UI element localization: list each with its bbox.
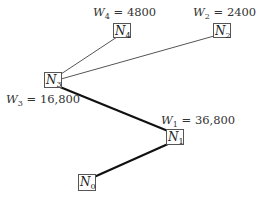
node-n3: N3: [45, 73, 62, 90]
node-n0-letter: N: [79, 175, 91, 189]
node-n1-letter: N: [167, 130, 179, 144]
node-n1: N1: [167, 130, 184, 147]
edge-n3-n4: [61, 37, 117, 74]
node-n2: N2: [214, 24, 231, 41]
weight-label-w4: W4 = 4800: [93, 5, 156, 21]
weight-label-w1: W1 = 36,800: [161, 113, 235, 129]
tree-diagram: N4 N2 N3 N1 N0 W4 = 4800 W2 = 2400 W3 = …: [0, 0, 258, 201]
edge-n1-n0: [94, 144, 168, 177]
node-n0-sub: 0: [91, 182, 96, 191]
node-n0: N0: [79, 175, 96, 192]
node-n3-letter: N: [45, 73, 57, 87]
node-n4-sub: 4: [126, 31, 131, 40]
node-n3-sub: 3: [57, 80, 62, 89]
node-n2-letter: N: [214, 24, 226, 38]
edge-n3-n2: [61, 36, 214, 79]
node-n2-sub: 2: [226, 31, 231, 40]
weight-label-w2: W2 = 2400: [193, 5, 256, 21]
node-n4: N4: [114, 24, 131, 41]
node-n1-sub: 1: [179, 137, 184, 146]
weight-label-w3: W3 = 16,800: [6, 92, 80, 108]
node-n4-letter: N: [114, 24, 126, 38]
